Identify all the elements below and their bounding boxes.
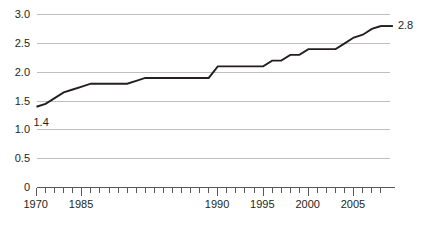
data-series-line xyxy=(37,26,393,107)
y-axis-tick-label: 1.0 xyxy=(0,124,30,135)
line-chart: 3.02.52.01.51.00.50 19701985199019952000… xyxy=(0,0,429,228)
y-axis-tick-label: 2.5 xyxy=(0,38,30,49)
x-axis-tick-label: 1990 xyxy=(205,199,239,210)
series-line xyxy=(37,26,381,107)
x-axis-tick-label: 2000 xyxy=(295,199,329,210)
y-axis-tick-label: 1.5 xyxy=(0,96,30,107)
x-axis-tick-label: 1970 xyxy=(24,199,58,210)
x-axis xyxy=(37,188,396,196)
data-point-label: 1.4 xyxy=(34,117,49,128)
chart-canvas xyxy=(0,0,429,228)
y-axis-tick-label: 0.5 xyxy=(0,153,30,164)
x-axis-tick-label: 1995 xyxy=(250,199,284,210)
x-axis-tick-label: 2005 xyxy=(341,199,375,210)
y-axis-tick-label: 2.0 xyxy=(0,67,30,78)
y-axis-tick-label: 0 xyxy=(0,182,30,193)
gridlines xyxy=(37,15,391,188)
x-axis-tick-label: 1985 xyxy=(69,199,103,210)
data-point-label: 2.8 xyxy=(398,20,413,31)
y-axis-tick-label: 3.0 xyxy=(0,9,30,20)
